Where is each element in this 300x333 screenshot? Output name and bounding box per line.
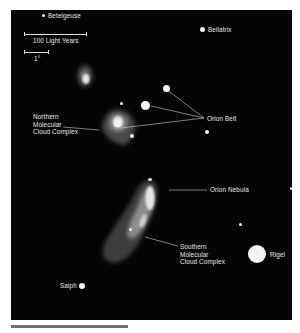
orion-nebula-label: Orion Nebula (210, 186, 249, 194)
small-star-icon (130, 134, 134, 138)
betelgeuse-star-icon (42, 14, 45, 17)
caption-divider (11, 325, 128, 328)
small-star-icon (129, 228, 132, 231)
small-star-icon (120, 102, 123, 105)
small-star-icon (290, 187, 292, 190)
belt-star-alnitak-icon (114, 120, 121, 127)
orion-map-figure: 100 Light Years 1° Betelgeuse Bellatrix … (11, 10, 292, 320)
small-star-icon (148, 178, 152, 181)
southern-cloud-label: Southern Molecular Cloud Complex (180, 243, 225, 266)
small-star-icon (239, 223, 242, 226)
northern-cloud-glow (102, 110, 135, 146)
upper-cloud-glow (75, 61, 95, 91)
northern-cloud-label: Northern Molecular Cloud Complex (33, 113, 78, 136)
saiph-star-icon (79, 283, 85, 289)
angle-scale-label: 1° (34, 55, 40, 63)
nebula-layer (11, 10, 292, 320)
betelgeuse-label: Betelgeuse (48, 12, 81, 20)
small-star-icon (205, 130, 209, 134)
bellatrix-star-icon (200, 27, 205, 32)
bellatrix-label: Bellatrix (208, 26, 232, 34)
southern-cloud-leader (145, 237, 178, 246)
southern-cloud-glow (103, 180, 158, 263)
belt-star-alnilam-icon (141, 101, 150, 110)
saiph-label: Saiph (60, 282, 77, 290)
distance-scale-label: 100 Light Years (33, 37, 79, 45)
rigel-label: Rigel (270, 251, 285, 259)
orion-belt-label: Orion Belt (207, 115, 236, 123)
belt-star-mintaka-icon (163, 85, 170, 92)
rigel-star-icon (248, 245, 266, 263)
